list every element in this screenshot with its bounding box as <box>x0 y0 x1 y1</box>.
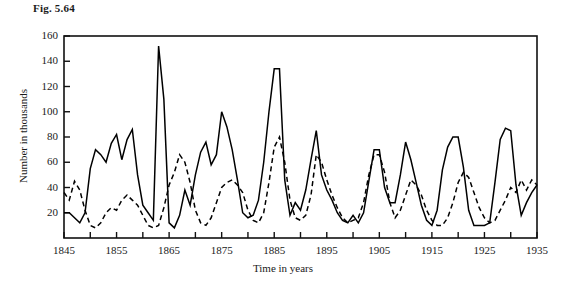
y-axis-tick-label: 60 <box>24 155 58 167</box>
y-axis-tick-label: 80 <box>24 130 58 142</box>
y-axis-tick-label: 140 <box>24 54 58 66</box>
x-axis-tick-label: 1855 <box>95 244 139 256</box>
x-axis-tick-label: 1925 <box>462 244 506 256</box>
x-axis-tick-label: 1845 <box>42 244 86 256</box>
y-axis-tick-label: 40 <box>24 181 58 193</box>
x-axis-tick-label: 1905 <box>357 244 401 256</box>
chart-plot: Number in thousands Time in years 204060… <box>0 0 566 288</box>
x-axis-tick-label: 1865 <box>147 244 191 256</box>
x-axis-tick-label: 1935 <box>515 244 559 256</box>
x-axis-tick-label: 1885 <box>252 244 296 256</box>
y-axis-tick-label: 20 <box>24 206 58 218</box>
x-axis-label: Time in years <box>0 262 566 274</box>
x-axis-tick-label: 1915 <box>410 244 454 256</box>
y-axis-tick-label: 160 <box>24 29 58 41</box>
x-axis-tick-label: 1895 <box>305 244 349 256</box>
x-axis-tick-label: 1875 <box>200 244 244 256</box>
y-axis-tick-label: 120 <box>24 80 58 92</box>
data-line-solid <box>64 46 537 228</box>
y-axis-tick-label: 100 <box>24 105 58 117</box>
